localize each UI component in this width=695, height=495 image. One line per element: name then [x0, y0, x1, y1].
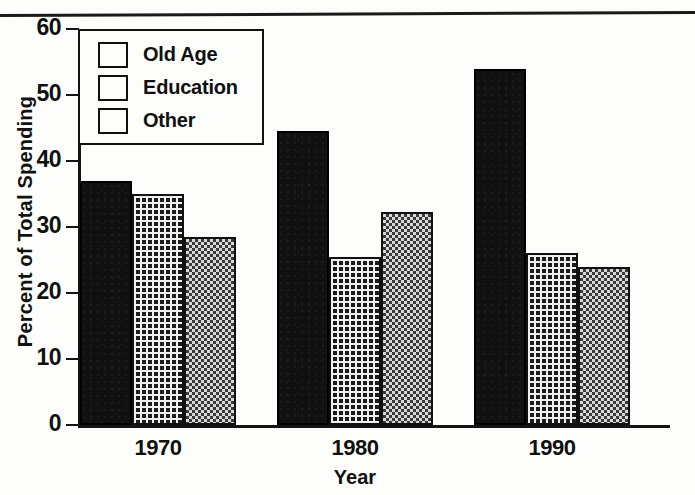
bar-1990-education[interactable] — [526, 253, 578, 425]
x-tick-label-1990: 1990 — [482, 435, 622, 461]
legend-label-old-age: Old Age — [143, 43, 218, 66]
y-tick-label: 20 — [3, 278, 61, 305]
y-tick-mark — [66, 160, 79, 162]
legend-swatch-old-age-icon — [98, 42, 128, 68]
bar-1990-old-age[interactable] — [474, 69, 526, 425]
x-tick-label-1980: 1980 — [285, 435, 425, 461]
legend-box: Old Age Education Other — [78, 29, 264, 145]
bar-1980-old-age[interactable] — [277, 131, 329, 425]
y-tick-label: 30 — [3, 212, 61, 239]
legend-swatch-education-icon — [98, 75, 128, 101]
y-tick-mark — [66, 226, 79, 228]
bar-1970-education[interactable] — [132, 194, 184, 425]
x-axis-line — [78, 425, 670, 428]
y-tick-mark — [66, 358, 79, 360]
y-tick-label: 0 — [3, 410, 61, 437]
y-tick-label: 40 — [3, 146, 61, 173]
legend-label-other: Other — [143, 109, 195, 132]
bar-1980-other[interactable] — [381, 212, 433, 425]
y-tick-label: 10 — [3, 344, 61, 371]
legend-item-education[interactable]: Education — [98, 71, 262, 104]
bar-1970-other[interactable] — [184, 237, 236, 425]
bar-chart-figure: Percent of Total Spending 0102030405060 … — [0, 0, 695, 495]
y-tick-mark — [66, 292, 79, 294]
scan-artifact-line — [0, 11, 695, 17]
bar-1980-education[interactable] — [329, 257, 381, 425]
bar-1970-old-age[interactable] — [80, 181, 132, 425]
y-tick-label: 60 — [3, 14, 61, 41]
legend-swatch-other-icon — [98, 108, 128, 134]
x-tick-label-1970: 1970 — [88, 435, 228, 461]
bar-1990-other[interactable] — [578, 267, 630, 425]
y-tick-label: 50 — [3, 80, 61, 107]
legend-label-education: Education — [143, 76, 238, 99]
y-tick-mark — [66, 424, 79, 426]
legend-item-old-age[interactable]: Old Age — [98, 38, 262, 71]
legend-item-other[interactable]: Other — [98, 104, 262, 137]
x-axis-title: Year — [285, 466, 425, 489]
